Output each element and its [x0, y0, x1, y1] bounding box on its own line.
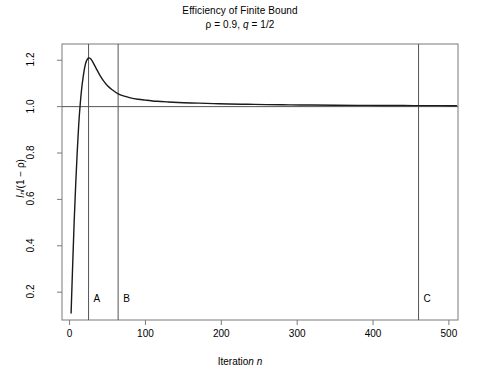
- y-tick-label: 0.6: [25, 179, 36, 219]
- x-tick-label: 200: [201, 328, 241, 339]
- x-tick-label: 500: [429, 328, 469, 339]
- axis-tick-marks: [57, 60, 449, 325]
- marker-vlines: [89, 44, 419, 320]
- x-tick-label: 400: [353, 328, 393, 339]
- y-tick-label: 1.2: [25, 40, 36, 80]
- marker-label-B: B: [123, 293, 130, 304]
- x-tick-label: 100: [125, 328, 165, 339]
- plot-frame: [62, 44, 458, 320]
- x-axis-title: Iteration n: [0, 356, 480, 367]
- x-tick-label: 300: [277, 328, 317, 339]
- marker-label-A: A: [94, 293, 101, 304]
- chart-figure: Efficiency of Finite Bound ρ = 0.9, q = …: [0, 0, 480, 390]
- plot-frame-rect: [62, 44, 458, 320]
- y-tick-label: 1.0: [25, 86, 36, 126]
- chart-title: Efficiency of Finite Bound: [0, 5, 480, 16]
- x-tick-label: 0: [50, 328, 90, 339]
- efficiency-curve: [71, 58, 456, 313]
- data-series: [71, 58, 456, 313]
- y-tick-label: 0.8: [25, 133, 36, 173]
- y-tick-label: 0.2: [25, 272, 36, 312]
- y-tick-label: 0.4: [25, 225, 36, 265]
- chart-subtitle: ρ = 0.9, q = 1/2: [0, 19, 480, 30]
- marker-label-C: C: [424, 293, 431, 304]
